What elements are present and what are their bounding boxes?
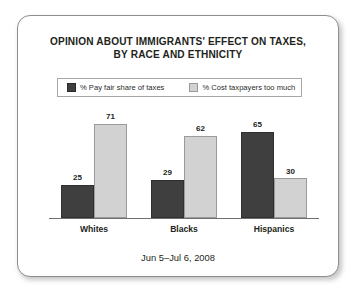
bar-blacks-pay-fair-share: 29 [151, 112, 184, 218]
chart-bar-groups: 25 71 29 62 [49, 112, 319, 218]
bar-value-label: 30 [286, 167, 295, 176]
chart-plot-area: 25 71 29 62 [49, 112, 319, 219]
chart-card: OPINION ABOUT IMMIGRANTS' EFFECT ON TAXE… [17, 15, 339, 277]
category-label-hispanics: Hispanics [241, 224, 307, 234]
legend-label-pay-fair-share: % Pay fair share of taxes [80, 83, 164, 92]
bar-whites-cost-taxpayers: 71 [94, 112, 127, 218]
category-label-blacks: Blacks [151, 224, 217, 234]
legend-swatch-dark-icon [67, 83, 76, 92]
bar-whites-pay-fair-share: 25 [61, 112, 94, 218]
bar-rect [184, 136, 217, 218]
bar-rect [94, 124, 127, 218]
chart-title: OPINION ABOUT IMMIGRANTS' EFFECT ON TAXE… [18, 35, 338, 61]
chart-title-line-1: OPINION ABOUT IMMIGRANTS' EFFECT ON TAXE… [18, 35, 338, 48]
chart-title-line-2: BY RACE AND ETHNICITY [18, 48, 338, 61]
bar-hispanics-pay-fair-share: 65 [241, 112, 274, 218]
legend-item-cost-taxpayers: % Cost taxpayers too much [189, 79, 295, 96]
bar-rect [151, 180, 184, 218]
bar-group-whites: 25 71 [61, 112, 127, 218]
bar-value-label: 29 [163, 168, 172, 177]
bar-value-label: 71 [106, 112, 115, 121]
category-label-whites: Whites [61, 224, 127, 234]
bar-rect [61, 185, 94, 218]
bar-rect [241, 132, 274, 218]
bar-value-label: 25 [73, 173, 82, 182]
chart-legend: % Pay fair share of taxes % Cost taxpaye… [57, 78, 302, 97]
chart-footnote: Jun 5–Jul 6, 2008 [18, 252, 338, 263]
bar-group-blacks: 29 62 [151, 112, 217, 218]
legend-label-cost-taxpayers: % Cost taxpayers too much [202, 83, 295, 92]
bar-blacks-cost-taxpayers: 62 [184, 112, 217, 218]
chart-category-labels: Whites Blacks Hispanics [49, 222, 319, 236]
bar-rect [274, 178, 307, 218]
bar-hispanics-cost-taxpayers: 30 [274, 112, 307, 218]
screenshot-stage: OPINION ABOUT IMMIGRANTS' EFFECT ON TAXE… [0, 0, 356, 292]
legend-item-pay-fair-share: % Pay fair share of taxes [67, 79, 164, 96]
bar-value-label: 62 [196, 124, 205, 133]
chart-x-axis-line [49, 218, 319, 219]
bar-value-label: 65 [253, 120, 262, 129]
legend-swatch-light-icon [189, 83, 198, 92]
bar-group-hispanics: 65 30 [241, 112, 307, 218]
